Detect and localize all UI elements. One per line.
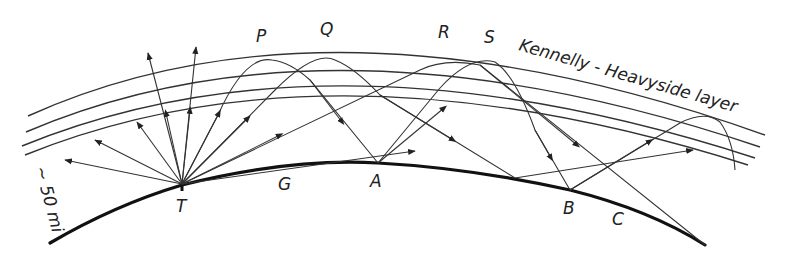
label-ground-wave: G <box>278 174 291 194</box>
label-a: A <box>369 171 382 191</box>
radio-propagation-diagram: P Q R S T G A B C Kennelly - Heavyside l… <box>0 0 785 261</box>
label-c: C <box>612 209 624 229</box>
label-s: S <box>484 27 495 47</box>
layer-label: Kennelly - Heavyside layer <box>517 35 741 117</box>
label-p: P <box>256 26 267 46</box>
label-b: B <box>563 198 575 218</box>
ionosphere-layer <box>22 52 765 165</box>
label-r: R <box>438 22 450 42</box>
scale-label: ~ 50 mi <box>31 164 68 235</box>
label-q: Q <box>320 19 333 39</box>
ray-fan <box>65 47 196 184</box>
label-transmitter: T <box>176 196 188 216</box>
